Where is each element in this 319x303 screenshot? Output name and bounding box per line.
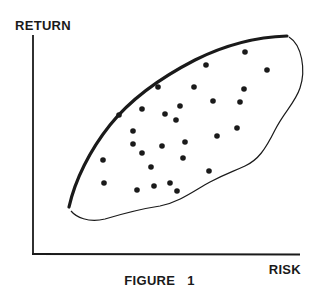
- data-point: [162, 111, 168, 117]
- data-point: [173, 117, 179, 123]
- x-axis: [32, 254, 300, 255]
- data-point: [180, 155, 186, 161]
- data-point: [206, 168, 212, 174]
- portfolio-points: [100, 49, 270, 194]
- data-point: [203, 62, 209, 68]
- data-point: [242, 49, 248, 55]
- data-point: [134, 187, 140, 193]
- data-point: [210, 98, 216, 104]
- data-point: [237, 99, 243, 105]
- data-point: [167, 180, 173, 186]
- scatter-plot: [0, 0, 319, 303]
- data-point: [214, 133, 220, 139]
- data-point: [234, 125, 240, 131]
- data-point: [159, 143, 165, 149]
- data-point: [130, 141, 136, 147]
- data-point: [264, 67, 270, 73]
- data-point: [241, 86, 247, 92]
- data-point: [100, 157, 106, 163]
- data-point: [139, 150, 145, 156]
- data-point: [139, 106, 145, 112]
- data-point: [177, 103, 183, 109]
- data-point: [155, 84, 161, 90]
- data-point: [148, 164, 154, 170]
- data-point: [116, 112, 122, 118]
- data-point: [130, 128, 136, 134]
- data-point: [191, 84, 197, 90]
- data-point: [174, 188, 180, 194]
- data-point: [182, 139, 188, 145]
- axes: [32, 35, 300, 255]
- data-point: [101, 180, 107, 186]
- data-point: [151, 183, 157, 189]
